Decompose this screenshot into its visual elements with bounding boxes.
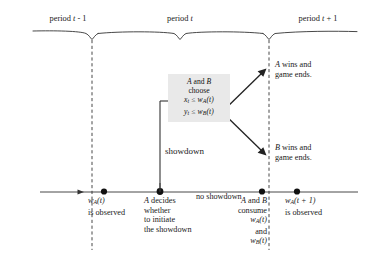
choice-box-line-3: xt ≤ wA(t): [173, 95, 225, 106]
outcome-label-b-wins: B wins and game ends.: [275, 143, 312, 162]
a-decides-line-1: A decides: [144, 196, 192, 206]
w-next-math: wA(t + 1): [285, 196, 322, 208]
outcome-fork-arrowheads: [258, 69, 267, 156]
period-next-var: t: [322, 14, 324, 23]
outcome-a-rest: wins and: [280, 60, 311, 69]
timeline-dot-consume: [259, 188, 265, 194]
outcome-b-line-2: game ends.: [275, 153, 312, 163]
w-next-arg: (t + 1): [294, 196, 315, 205]
brace-period-current: [98, 32, 263, 40]
choice-x-arg: (t): [206, 95, 213, 104]
consume-wb-arg: (t): [259, 236, 267, 245]
choice-box: A and B choose xt ≤ wA(t) yt ≤ wB(t): [168, 74, 230, 122]
timeline-dot-a-decides: [157, 188, 164, 195]
period-current-word: period: [167, 14, 188, 23]
choice-box-line-4: yt ≤ wB(t): [173, 107, 225, 118]
choice-y-arg: (t): [206, 107, 213, 116]
brace-period-next: [263, 31, 357, 39]
outcome-b-line-1: B wins and: [275, 143, 312, 153]
timeline-label-a-decides: A decides whether to initiate the showdo…: [144, 196, 192, 234]
timeline-dot-w-observed: [101, 188, 107, 194]
outcome-label-a-wins: A wins and game ends.: [275, 60, 312, 79]
arrowhead-b-wins: [258, 147, 267, 155]
consume-line-4: and: [212, 227, 267, 237]
w-observed-math: wA(t): [88, 196, 125, 208]
timeline-label-w-observed: wA(t) is observed: [88, 196, 125, 217]
consume-wa-arg: (t): [259, 215, 267, 224]
consume-line-3: wA(t): [212, 215, 267, 227]
period-label-next: period t + 1: [284, 14, 352, 24]
showdown-label: showdown: [165, 146, 204, 156]
w-next-text: is observed: [285, 208, 322, 218]
period-prev-var: t: [73, 14, 75, 23]
outcome-a-line-1: A wins and: [275, 60, 312, 70]
timeline-label-consume: A and B consume wA(t) and wB(t): [212, 196, 267, 248]
choice-conjunction: and: [192, 77, 207, 86]
period-label-prev: period t - 1: [38, 14, 98, 24]
period-prev-word: period: [50, 14, 71, 23]
choice-player-b: B: [206, 77, 211, 86]
choice-x-rel: ≤: [191, 95, 195, 104]
w-observed-text: is observed: [88, 208, 125, 218]
period-prev-suffix: - 1: [77, 14, 86, 23]
consume-conjunction: and: [246, 196, 262, 205]
a-decides-verb: decides: [149, 196, 176, 205]
outcome-b-rest: wins and: [280, 143, 311, 152]
outcome-a-line-2: game ends.: [275, 70, 312, 80]
choice-y-rel: ≤: [191, 107, 195, 116]
w-observed-arg: (t): [97, 196, 105, 205]
period-current-var: t: [191, 14, 193, 23]
consume-line-1: A and B: [212, 196, 267, 206]
period-next-suffix: + 1: [326, 14, 337, 23]
choice-box-line-1: A and B: [173, 77, 225, 86]
period-brace-group: [33, 31, 357, 40]
timeline-dot-w-next-observed: [294, 188, 300, 194]
brace-period-prev: [33, 31, 98, 40]
timeline-entry-arrowhead: [78, 190, 85, 195]
period-label-current: period t: [150, 14, 210, 24]
a-decides-line-3: to initiate: [144, 215, 192, 225]
a-decides-line-4: the showdown: [144, 225, 192, 235]
choice-box-line-2: choose: [173, 86, 225, 95]
arrowhead-a-wins: [258, 69, 267, 77]
game-timeline-diagram: period t - 1 period t period t + 1 A and…: [0, 0, 368, 273]
consume-actor-b: B: [262, 196, 267, 205]
period-next-word: period: [299, 14, 320, 23]
a-decides-line-2: whether: [144, 206, 192, 216]
consume-line-2: consume: [212, 206, 267, 216]
timeline-label-w-next-observed: wA(t + 1) is observed: [285, 196, 322, 217]
consume-line-5: wB(t): [212, 236, 267, 248]
